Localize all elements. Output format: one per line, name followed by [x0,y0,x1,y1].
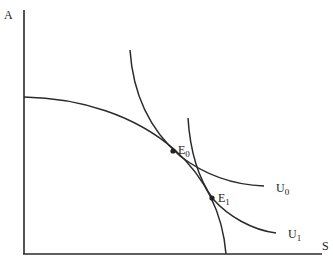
label-u0: U0 [276,181,290,197]
x-axis-label: S [322,239,329,253]
label-u1-main: U [288,227,297,241]
ppf-curve [24,97,226,254]
label-e0: E0 [178,143,190,159]
label-e0-sub: 0 [185,149,190,159]
label-u1: U1 [288,227,301,243]
label-e0-main: E [178,143,185,157]
label-e1-main: E [218,191,225,205]
label-u1-sub: 1 [297,233,302,243]
label-e1-sub: 1 [225,197,230,207]
point-e1 [209,195,214,200]
label-e1: E1 [218,191,230,207]
diagram-canvas: A S E0 E1 U0 U1 [0,0,333,262]
point-e0 [170,148,175,153]
label-u0-main: U [276,181,285,195]
y-axis-label: A [4,8,13,22]
label-u0-sub: 0 [285,187,290,197]
indifference-curve-u1 [188,118,276,233]
